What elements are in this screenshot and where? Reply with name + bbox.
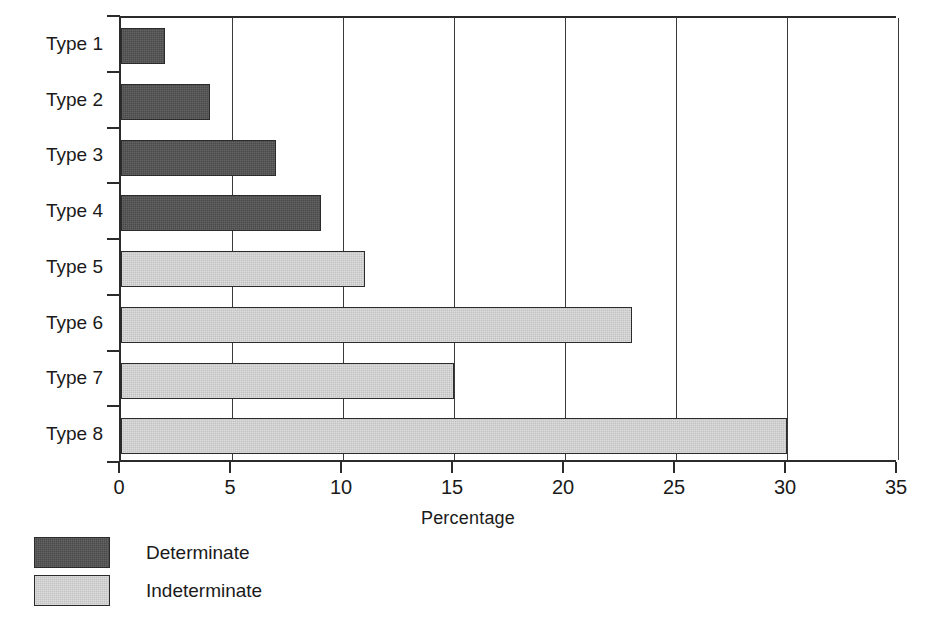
- x-axis-tick-label-25: 25: [639, 477, 709, 497]
- legend-label-determinate: Determinate: [146, 543, 250, 562]
- bar-type-1[interactable]: [121, 28, 165, 64]
- y-axis-tick: [107, 182, 120, 184]
- y-axis-tick: [107, 405, 120, 407]
- legend-swatch-indeterminate: [34, 575, 110, 606]
- y-axis-label-type-3: Type 3: [0, 145, 103, 164]
- y-axis-label-wrap: Type 1: [0, 34, 103, 54]
- legend-item[interactable]: Indeterminate: [34, 571, 262, 609]
- x-axis-title: Percentage: [0, 508, 936, 529]
- x-axis-tick-30: [784, 462, 786, 473]
- bar-type-7[interactable]: [121, 363, 454, 399]
- y-axis-label-type-2: Type 2: [0, 90, 103, 109]
- y-axis-label-wrap: Type 5: [0, 257, 103, 277]
- y-axis-label-type-6: Type 6: [0, 313, 103, 332]
- bar-band: [121, 74, 898, 130]
- chart-legend: DeterminateIndeterminate: [34, 533, 262, 609]
- y-axis-tick: [107, 350, 120, 352]
- bar-type-8[interactable]: [121, 418, 787, 454]
- y-axis-label-type-4: Type 4: [0, 201, 103, 220]
- x-axis-tick-label-0: 0: [84, 477, 154, 497]
- y-axis-label-wrap: Type 4: [0, 201, 103, 221]
- x-axis-tick-5: [229, 462, 231, 473]
- x-axis-tick-25: [673, 462, 675, 473]
- x-axis-tick-0: [118, 462, 120, 473]
- bar-band: [121, 408, 898, 464]
- y-axis-label-type-5: Type 5: [0, 257, 103, 276]
- y-axis-tick: [107, 238, 120, 240]
- x-axis-tick-label-15: 15: [417, 477, 487, 497]
- x-axis-tick-10: [340, 462, 342, 473]
- x-axis-tick-15: [451, 462, 453, 473]
- bar-type-3[interactable]: [121, 140, 276, 176]
- x-axis-tick-label-5: 5: [195, 477, 265, 497]
- legend-label-indeterminate: Indeterminate: [146, 581, 262, 600]
- bar-band: [121, 241, 898, 297]
- bar-type-6[interactable]: [121, 307, 632, 343]
- bar-band: [121, 130, 898, 186]
- bar-band: [121, 18, 898, 74]
- y-axis-label-wrap: Type 7: [0, 368, 103, 388]
- bar-band: [121, 297, 898, 353]
- gridline-35: [898, 18, 899, 460]
- y-axis-tick: [107, 15, 120, 17]
- y-axis-label-type-7: Type 7: [0, 368, 103, 387]
- y-axis-label-wrap: Type 3: [0, 145, 103, 165]
- y-axis-tick: [107, 294, 120, 296]
- x-axis-tick-20: [562, 462, 564, 473]
- plot-area: [119, 16, 896, 462]
- x-axis-tick-35: [895, 462, 897, 473]
- x-axis-tick-label-20: 20: [528, 477, 598, 497]
- y-axis-label-wrap: Type 2: [0, 90, 103, 110]
- x-axis-tick-label-35: 35: [861, 477, 931, 497]
- bar-chart: Type 1Type 2Type 3Type 4Type 5Type 6Type…: [0, 0, 936, 642]
- x-axis-tick-label-30: 30: [750, 477, 820, 497]
- y-axis-label-wrap: Type 8: [0, 424, 103, 444]
- y-axis-label-type-1: Type 1: [0, 34, 103, 53]
- bar-type-4[interactable]: [121, 195, 321, 231]
- bar-type-5[interactable]: [121, 251, 365, 287]
- y-axis-tick: [107, 71, 120, 73]
- y-axis-tick: [107, 127, 120, 129]
- bar-type-2[interactable]: [121, 84, 210, 120]
- legend-item[interactable]: Determinate: [34, 533, 262, 571]
- y-axis-label-type-8: Type 8: [0, 424, 103, 443]
- bar-band: [121, 185, 898, 241]
- y-axis-label-wrap: Type 6: [0, 313, 103, 333]
- bar-band: [121, 353, 898, 409]
- legend-swatch-determinate: [34, 537, 110, 568]
- x-axis-tick-label-10: 10: [306, 477, 376, 497]
